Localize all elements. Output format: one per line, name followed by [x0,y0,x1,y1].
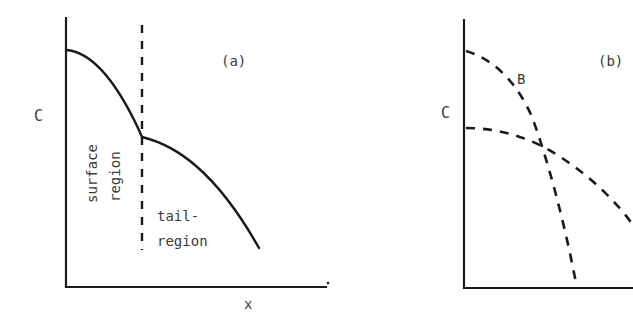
panel-b-tag: (b) [598,53,623,69]
panel-a-y-label: C [34,107,43,125]
tail-region-label-line2: region [157,233,208,249]
panel-b-curve-2 [466,128,633,225]
surface-region-label-line1: surface [84,144,100,203]
panel-b-y-label: C [441,104,450,122]
panel-a-x-label: x [244,296,252,312]
curve-b-label: B [517,71,525,87]
panel-b: C (b) B [441,20,633,288]
figure-canvas: C (a) x surface region tail- region C (b… [0,0,633,319]
tail-region-label-line1: tail- [157,208,199,224]
surface-region-label-line2: region [107,151,123,202]
panel-a-tag: (a) [221,53,246,69]
panel-a-axis-end-dot [327,282,330,285]
panel-a: C (a) x surface region tail- region [34,18,329,312]
